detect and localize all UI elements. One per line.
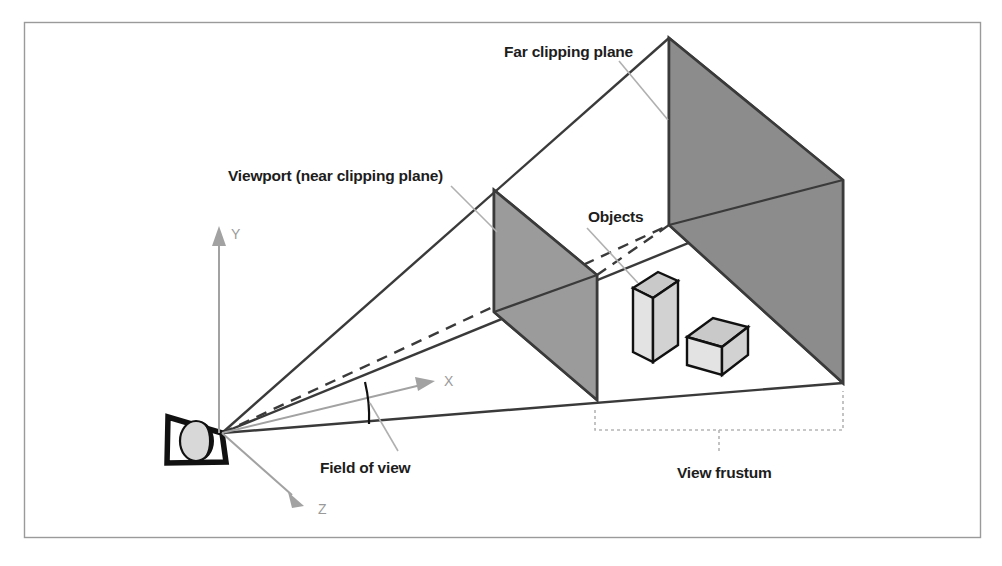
x-axis-label: X (444, 373, 454, 389)
object-box-tall (633, 272, 678, 362)
label-viewport-near-clipping-plane: Viewport (near clipping plane) (228, 167, 443, 184)
label-view-frustum: View frustum (677, 464, 772, 481)
figure-page: Y X Z Far clipping plane Viewport (near … (0, 0, 1002, 566)
label-far-clipping-plane: Far clipping plane (504, 43, 634, 60)
object-box-tall-front (633, 288, 653, 362)
label-field-of-view: Field of view (320, 459, 412, 476)
label-objects: Objects (588, 208, 643, 225)
z-axis-label: Z (318, 501, 327, 517)
y-axis-label: Y (231, 226, 241, 242)
view-frustum-diagram: Y X Z Far clipping plane Viewport (near … (0, 0, 1002, 566)
